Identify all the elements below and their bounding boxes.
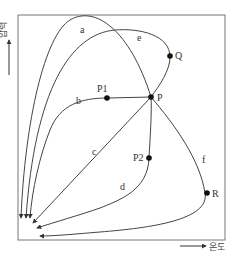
label-a: a — [80, 24, 85, 35]
point-P1 — [104, 95, 110, 101]
label-b: b — [76, 95, 81, 106]
path-e — [26, 30, 170, 218]
point-P — [148, 94, 154, 100]
path-f — [40, 97, 205, 236]
label-P1: P1 — [97, 83, 108, 94]
y-axis-text: 압력 — [0, 22, 8, 38]
point-Q — [167, 53, 173, 59]
label-R: R — [212, 188, 219, 199]
label-e: e — [137, 32, 142, 43]
x-axis-text: 온도 — [209, 242, 225, 252]
point-P2 — [146, 155, 152, 161]
label-P: P — [157, 92, 163, 103]
y-axis-label: 압력 — [0, 22, 9, 75]
phase-diagram: 압력 온도 P P1 P2 Q R a b c d e f — [0, 0, 238, 263]
path-a — [21, 16, 151, 218]
label-P2: P2 — [133, 152, 144, 163]
x-axis-label: 온도 — [180, 242, 225, 252]
label-c: c — [92, 146, 97, 157]
label-f: f — [202, 154, 206, 165]
label-d: d — [120, 181, 125, 192]
point-R — [204, 190, 210, 196]
label-Q: Q — [175, 50, 183, 61]
